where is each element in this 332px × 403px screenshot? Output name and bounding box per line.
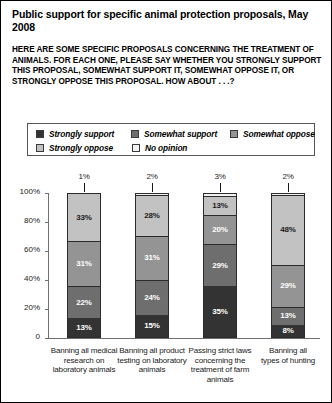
bar-segment[interactable]: 24% bbox=[136, 280, 168, 315]
y-axis-tick: 40% bbox=[45, 280, 49, 281]
bar-segment-value-label: 31% bbox=[144, 254, 159, 262]
legend-swatch-icon bbox=[36, 144, 44, 152]
chart-legend: Strongly support Somewhat support Somewh… bbox=[27, 123, 315, 156]
bar-segment-value-label: 29% bbox=[280, 282, 295, 290]
bar-segment[interactable]: 31% bbox=[68, 241, 100, 286]
bar-segment[interactable]: 31% bbox=[136, 236, 168, 281]
bar-top-value-label: 2% bbox=[132, 172, 172, 181]
plot-area: 020%40%60%80%100% 13%22%31%33%1%15%24%31… bbox=[49, 193, 319, 338]
stacked-bar[interactable]: 35%29%20%13% bbox=[203, 193, 237, 338]
y-axis-tick-label: 80% bbox=[24, 216, 40, 225]
bar-segment[interactable]: 48% bbox=[272, 195, 304, 265]
bar-segment-value-label: 31% bbox=[76, 260, 91, 268]
bar-segment[interactable] bbox=[136, 193, 168, 195]
chart-title: Public support for specific animal prote… bbox=[12, 8, 320, 34]
y-axis-tick-label: 40% bbox=[24, 274, 40, 283]
bar-segment-value-label: 20% bbox=[212, 226, 227, 234]
bar-segment[interactable]: 8% bbox=[272, 325, 304, 337]
stacked-bar[interactable]: 8%13%29%48% bbox=[271, 193, 305, 338]
legend-swatch-icon bbox=[132, 144, 140, 152]
x-axis-category-label: Banning all product testing on laborator… bbox=[115, 346, 189, 375]
bar-label-leader-line bbox=[288, 183, 289, 192]
legend-item-strongly-support: Strongly support bbox=[28, 126, 131, 141]
x-axis bbox=[48, 338, 320, 339]
bar-segment-value-label: 15% bbox=[144, 322, 159, 330]
bar-segment-value-label: 35% bbox=[212, 308, 227, 316]
bar-segment[interactable]: 28% bbox=[136, 195, 168, 236]
bar-segment-value-label: 13% bbox=[76, 324, 91, 332]
y-axis-tick-label: 100% bbox=[20, 187, 40, 196]
legend-item-somewhat-oppose: Somewhat oppose bbox=[230, 126, 314, 141]
legend-label: Strongly oppose bbox=[49, 143, 113, 153]
legend-label: Somewhat support bbox=[144, 129, 217, 139]
legend-swatch-icon bbox=[230, 130, 238, 138]
legend-item-no-opinion: No opinion bbox=[132, 140, 232, 155]
y-axis bbox=[48, 193, 49, 339]
bar-label-leader-line bbox=[152, 183, 153, 192]
stacked-bar[interactable]: 13%22%31%33% bbox=[67, 193, 101, 338]
legend-swatch-icon bbox=[131, 130, 139, 138]
bar-segment-value-label: 13% bbox=[212, 202, 227, 210]
y-axis-tick-label: 20% bbox=[24, 303, 40, 312]
bar-segment[interactable]: 29% bbox=[272, 265, 304, 307]
bar-segment[interactable]: 33% bbox=[68, 193, 100, 241]
bar-top-value-label: 2% bbox=[268, 172, 308, 181]
bar-segment[interactable]: 13% bbox=[204, 196, 236, 215]
legend-swatch-icon bbox=[36, 130, 44, 138]
bar-top-value-label: 3% bbox=[200, 172, 240, 181]
bar-segment-value-label: 13% bbox=[280, 312, 295, 320]
bar-top-value-label: 1% bbox=[64, 172, 104, 181]
bar-segment[interactable] bbox=[204, 193, 236, 196]
y-axis-tick: 100% bbox=[45, 193, 49, 194]
bar-segment[interactable]: 22% bbox=[68, 286, 100, 318]
chart-figure: Public support for specific animal prote… bbox=[0, 0, 332, 403]
bar-segment-value-label: 29% bbox=[212, 262, 227, 270]
y-axis-tick: 20% bbox=[45, 309, 49, 310]
chart-subtitle: HERE ARE SOME SPECIFIC PROPOSALS CONCERN… bbox=[12, 45, 322, 87]
y-axis-tick: 60% bbox=[45, 251, 49, 252]
legend-item-somewhat-support: Somewhat support bbox=[131, 126, 230, 141]
bar-segment[interactable]: 13% bbox=[272, 307, 304, 326]
bar-segment[interactable]: 35% bbox=[204, 286, 236, 337]
bar-segment-value-label: 28% bbox=[144, 212, 159, 220]
legend-label: Strongly support bbox=[49, 129, 114, 139]
bar-label-leader-line bbox=[84, 183, 85, 192]
bar-segment-value-label: 33% bbox=[76, 214, 91, 222]
bar-segment[interactable]: 29% bbox=[204, 244, 236, 286]
stacked-bar[interactable]: 15%24%31%28% bbox=[135, 193, 169, 338]
x-axis-category-label: Banning all medical research on laborato… bbox=[46, 346, 122, 375]
bar-segment[interactable]: 13% bbox=[68, 318, 100, 337]
x-axis-category-label: Banning all types of hunting bbox=[259, 346, 317, 365]
y-axis-tick: 0 bbox=[45, 338, 49, 339]
y-axis-tick-label: 60% bbox=[24, 245, 40, 254]
bar-segment[interactable]: 20% bbox=[204, 215, 236, 244]
bar-segment-value-label: 8% bbox=[282, 327, 293, 335]
bar-segment-value-label: 24% bbox=[144, 294, 159, 302]
y-axis-tick: 80% bbox=[45, 222, 49, 223]
legend-item-strongly-oppose: Strongly oppose bbox=[28, 140, 132, 155]
bar-label-leader-line bbox=[220, 183, 221, 192]
bar-segment-value-label: 22% bbox=[76, 299, 91, 307]
legend-label: No opinion bbox=[145, 143, 187, 153]
legend-label: Somewhat oppose bbox=[243, 129, 315, 139]
y-axis-tick-label: 0 bbox=[36, 332, 40, 341]
bar-segment-value-label: 48% bbox=[280, 226, 295, 234]
x-axis-category-label: Passing strict laws concerning the treat… bbox=[181, 346, 259, 384]
bar-segment[interactable] bbox=[272, 193, 304, 195]
bar-segment[interactable]: 15% bbox=[136, 315, 168, 337]
